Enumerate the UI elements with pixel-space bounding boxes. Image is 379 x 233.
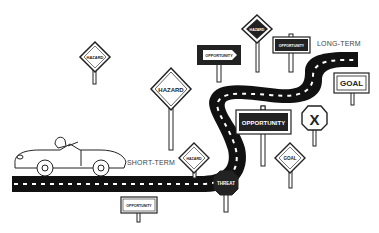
hazard-sign-top: HAZARD xyxy=(242,15,272,72)
svg-text:OPPORTUNITY: OPPORTUNITY xyxy=(205,54,233,58)
svg-text:OPPORTUNITY: OPPORTUNITY xyxy=(126,204,152,208)
goal-sign-diamond: GOAL xyxy=(275,143,305,188)
opportunity-sign-top: OPPORTUNITY xyxy=(273,34,310,72)
hazard-sign-mid: HAZARD xyxy=(151,68,191,150)
stop-x-sign: X xyxy=(302,106,327,146)
hazard-sign-top-left: HAZARD xyxy=(80,42,110,84)
svg-text:HAZARD: HAZARD xyxy=(87,55,104,60)
road-illustration: SHORT-TERM LONG-TERM HAZARD HAZARD HAZAR… xyxy=(0,0,379,233)
svg-text:X: X xyxy=(309,111,319,128)
goal-sign-rect: GOAL xyxy=(334,73,369,105)
opportunity-sign-bottom: OPPORTUNITY xyxy=(121,197,157,222)
svg-text:GOAL: GOAL xyxy=(284,156,297,161)
svg-text:HAZARD: HAZARD xyxy=(158,87,184,93)
long-term-label: LONG-TERM xyxy=(317,40,361,47)
short-term-label: SHORT-TERM xyxy=(127,159,175,166)
threat-sign: THREAT xyxy=(214,171,238,212)
svg-text:OPPORTUNITY: OPPORTUNITY xyxy=(242,120,285,126)
svg-text:OPPORTUNITY: OPPORTUNITY xyxy=(279,44,305,48)
svg-text:HAZARD: HAZARD xyxy=(250,28,265,32)
svg-text:GOAL: GOAL xyxy=(340,79,363,88)
hazard-sign-road: HAZARD xyxy=(179,143,209,178)
svg-text:HAZARD: HAZARD xyxy=(186,157,202,161)
svg-text:THREAT: THREAT xyxy=(217,181,235,186)
opportunity-arrow-sign: OPPORTUNITY xyxy=(197,45,241,82)
convertible-car xyxy=(15,137,126,176)
